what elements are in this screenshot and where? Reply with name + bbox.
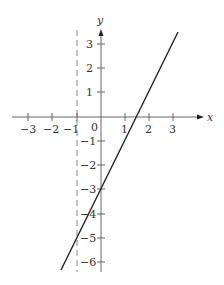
x-tick-label: −2 [43,123,59,136]
x-axis-label: x [207,111,214,124]
chart: x y −3 −2 −1 0 1 2 3 3 2 1 −1 −2 −3 −4 −… [0,0,224,285]
x-tick-label: 1 [121,123,128,136]
x-tick-label: −3 [20,123,36,136]
y-tick-label: −5 [80,232,96,245]
y-tick-label: −6 [80,256,96,269]
y-axis-label: y [96,14,104,27]
x-axis-arrow-icon [197,115,204,120]
y-tick-label: −2 [80,159,96,172]
origin-label: 0 [91,121,98,134]
y-tick-label: −1 [80,135,96,148]
line-series [61,32,178,270]
x-tick-label: 2 [145,123,152,136]
x-tick-label: −1 [63,123,79,136]
x-tick-label: 3 [169,123,176,136]
y-tick-label: 3 [86,38,93,51]
y-tick-label: 1 [86,86,93,99]
y-tick-label: −3 [80,183,96,196]
y-tick-label: 2 [86,62,93,75]
y-axis-arrow-icon [99,29,104,36]
